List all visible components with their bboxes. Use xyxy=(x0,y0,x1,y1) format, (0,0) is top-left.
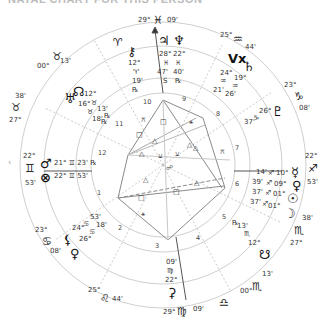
moon-icon: ☽ xyxy=(284,206,296,221)
juno-icon: ⚳ xyxy=(167,285,177,300)
chart-label: 01° xyxy=(273,190,285,198)
chart-label: 38' xyxy=(302,214,313,222)
chart-label: 00° xyxy=(37,62,49,70)
chart-label: ♓ xyxy=(175,59,181,67)
vertex-placement: Vx 24° ♒ 21' xyxy=(213,51,247,94)
neptune-placement: ♆ 22° ♓ 40' ℞ xyxy=(173,33,185,85)
chart-label: 10 xyxy=(143,98,151,106)
chart-label: 4 xyxy=(196,234,200,242)
chart-label: 22° xyxy=(165,276,177,284)
chart-label: 22° xyxy=(305,152,317,160)
part-of-fortune-placement: ⊗ 22° ♊ 53' xyxy=(40,170,88,185)
chart-label: ♑ xyxy=(294,90,304,103)
chart-label: 27° xyxy=(290,239,302,247)
quincunx-aspect-icon: ⚻ xyxy=(220,148,225,156)
chart-label: 18' xyxy=(96,221,107,229)
chart-label: ℞ xyxy=(132,86,138,94)
chart-label: 53' xyxy=(307,178,318,186)
h8-cusp-label: 23° ♑ 08' xyxy=(284,81,310,112)
chart-label: 08' xyxy=(299,104,310,112)
chart-label: 09' xyxy=(193,305,204,313)
h11-cusp-label: 13' ♉ 00° xyxy=(37,50,71,70)
chart-label: 21' xyxy=(213,86,224,94)
square-aspect-icon: □ xyxy=(136,131,143,139)
chart-label: 22° xyxy=(173,50,185,58)
aspect-glyphs: □ □ △ △ △ △ ⚹ ⚻ △ △ □ □ ⚺ ⚺ ☍ ⚹ ⚻ xyxy=(136,116,225,218)
chart-label: 09' xyxy=(167,16,178,24)
chart-label: 27° xyxy=(9,116,21,124)
chart-label: 37' xyxy=(252,188,263,196)
chart-label: ♒ xyxy=(232,82,238,90)
opposition-aspect-icon: ☍ xyxy=(166,164,173,172)
chart-label: 09° xyxy=(274,180,286,188)
chart-label: 13' xyxy=(237,222,248,230)
chart-label: 10° xyxy=(276,169,288,177)
chart-label: 14' xyxy=(256,168,267,176)
chart-label: 16° xyxy=(78,100,90,108)
chart-label: ♐ xyxy=(266,179,272,187)
chart-label: ♒ xyxy=(233,33,243,46)
chart-label: 44' xyxy=(112,295,123,303)
square-aspect-icon: □ xyxy=(173,188,180,196)
chart-label: 47' xyxy=(157,68,168,76)
chart-label: 9 xyxy=(182,95,186,103)
chart-label: 24° xyxy=(220,69,232,77)
chart-label: 5 xyxy=(222,213,226,221)
chart-label: ♍ xyxy=(177,305,187,318)
semisextile-aspect-icon: ⚺ xyxy=(158,152,163,160)
neptune-icon: ♆ xyxy=(173,33,185,48)
chart-label: 12 xyxy=(98,149,106,157)
chart-label: 53' xyxy=(90,213,101,221)
jupiter-icon: ♃ xyxy=(158,33,170,48)
chart-label: 21° ♊ 23' ℞ xyxy=(54,159,96,167)
chart-label: 6 xyxy=(235,180,239,188)
chart-label: 00° xyxy=(240,287,252,295)
chart-label: 08' xyxy=(50,247,61,255)
chart-label: 1 xyxy=(97,189,101,197)
chart-label: 11 xyxy=(115,120,123,128)
quincunx-aspect-icon: ⚻ xyxy=(141,116,146,124)
chart-label: ♋ xyxy=(89,228,95,236)
part-of-fortune-icon: ⊗ xyxy=(40,170,51,185)
chart-label: ♏ xyxy=(244,230,251,238)
chart-label: ♋ xyxy=(83,220,89,228)
chart-label: 09' xyxy=(166,258,177,266)
trine-aspect-icon: △ xyxy=(194,179,200,187)
chart-label: 28° xyxy=(159,50,171,58)
lilith-icon: ⚸ xyxy=(63,232,73,247)
chart-label: ♍ xyxy=(167,267,173,275)
chart-label: ♐ xyxy=(265,189,271,197)
chart-label: 23° xyxy=(35,226,47,234)
aries-intercepted-icon: ♈ xyxy=(113,36,123,49)
south-node-placement: ℞ 13' ♏ 12° ☋ xyxy=(232,219,271,262)
trine-aspect-icon: △ xyxy=(193,144,199,152)
chart-label: 26° xyxy=(79,235,91,243)
pluto-placement: 37' ♑ 26° ♇ xyxy=(244,104,284,126)
chart-label: 2 xyxy=(118,224,122,232)
dsc-cusp-label: 22° ♐ 53' xyxy=(305,152,318,186)
chart-label: 12° xyxy=(84,90,96,98)
natal-chart-wheel: □ □ △ △ △ △ ⚹ ⚻ △ △ □ □ ⚺ ⚺ ☍ ⚹ ⚻ 1 2 3 … xyxy=(0,0,330,327)
chart-label: 29° xyxy=(138,16,150,24)
chart-label: 38' xyxy=(15,92,26,100)
trine-aspect-icon: △ xyxy=(152,137,158,145)
sun-icon: ☉ xyxy=(287,191,299,206)
square-aspect-icon: □ xyxy=(160,118,167,126)
libra-intercepted-icon: ♎ xyxy=(219,296,229,309)
chart-label: 26' xyxy=(225,90,236,98)
chart-label: ♏ xyxy=(294,224,304,237)
chart-label: 53' xyxy=(25,179,36,187)
uranus-icon: ♅ xyxy=(64,91,76,106)
chart-label: ♒ xyxy=(220,77,226,85)
chart-label: 13' xyxy=(262,270,273,278)
chart-label: 25° xyxy=(88,286,100,294)
ic-cusp-label: 29° ♍ 09' xyxy=(163,305,204,318)
chart-label: ♏ xyxy=(252,280,262,293)
chart-label: 12° xyxy=(248,239,260,247)
chart-label: ♐ xyxy=(308,162,318,175)
pluto-icon: ♇ xyxy=(272,104,284,119)
chart-label: ♉ xyxy=(11,101,21,114)
chart-label: ♊ xyxy=(25,162,35,175)
chiron-placement: ⚷ 12° ♈ 19' ℞ xyxy=(127,44,143,94)
chart-label: 37' xyxy=(250,198,261,206)
